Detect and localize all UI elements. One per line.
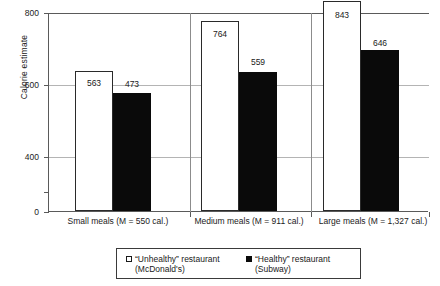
y-tick-mark-600 (44, 85, 49, 86)
y-tick-label-800: 800 (25, 8, 39, 18)
bar-large-unhealthy[interactable] (323, 1, 361, 211)
filled-square-icon (246, 256, 252, 262)
legend-entry-unhealthy: “Unhealthy” restaurant (126, 254, 220, 264)
plot-area: 563 473 764 559 843 646 (48, 13, 428, 212)
x-axis-end-tick (429, 212, 430, 217)
x-label-large-meals: Large meals (M = 1,327 cal.) (319, 216, 427, 226)
legend-label-healthy: “Healthy” restaurant (255, 254, 330, 264)
bar-chart-figure: Calorie estimate 800 600 400 0 563 473 7… (0, 0, 440, 286)
bar-small-healthy[interactable] (113, 93, 151, 211)
category-separator-2 (311, 13, 312, 212)
legend-sublabel-unhealthy: (McDonald's) (135, 264, 185, 274)
legend-box: “Unhealthy” restaurant (McDonald's) “Hea… (116, 248, 361, 279)
bar-value-small-healthy: 473 (113, 79, 151, 89)
y-tick-label-600: 600 (25, 80, 39, 90)
legend-label-unhealthy: “Unhealthy” restaurant (135, 254, 220, 264)
legend-sublabel-healthy: (Subway) (255, 264, 291, 274)
gridline-800 (49, 13, 429, 14)
y-tick-mark-0 (44, 212, 49, 213)
y-tick-label-400: 400 (25, 152, 39, 162)
bar-value-large-healthy: 646 (361, 38, 399, 48)
y-tick-mark-200 (44, 192, 49, 193)
bar-value-medium-healthy: 559 (239, 57, 277, 67)
x-label-medium-meals: Medium meals (M = 911 cal.) (194, 216, 303, 226)
y-tick-label-0: 0 (34, 207, 39, 217)
bar-small-unhealthy[interactable] (75, 71, 113, 211)
y-tick-mark-800 (44, 13, 49, 14)
bar-value-small-unhealthy: 563 (75, 78, 113, 88)
bar-medium-healthy[interactable] (239, 72, 277, 211)
x-label-small-meals: Small meals (M = 550 cal.) (68, 216, 169, 226)
bar-large-healthy[interactable] (361, 50, 399, 211)
legend-entry-healthy: “Healthy” restaurant (246, 254, 330, 264)
hollow-square-icon (126, 256, 132, 262)
bar-value-medium-unhealthy: 764 (201, 29, 239, 39)
y-tick-mark-400 (44, 157, 49, 158)
x-axis-category-labels: Small meals (M = 550 cal.) Medium meals … (48, 216, 428, 234)
category-separator-1 (190, 13, 191, 212)
y-axis-tick-labels: 800 600 400 0 (0, 13, 48, 212)
bar-medium-unhealthy[interactable] (201, 21, 239, 211)
bar-value-large-unhealthy: 843 (323, 10, 361, 20)
